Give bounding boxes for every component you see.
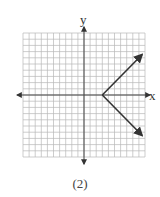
- x-axis-label: x: [149, 89, 156, 102]
- axes: [17, 27, 150, 164]
- figure-caption: (2): [0, 176, 160, 192]
- y-axis-label: y: [80, 13, 87, 26]
- coordinate-plane: [0, 0, 160, 197]
